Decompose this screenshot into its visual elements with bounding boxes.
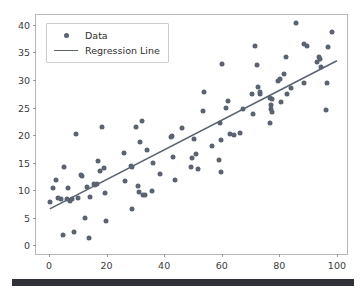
scatter-point bbox=[268, 121, 273, 126]
y-tick-label: 15 bbox=[18, 157, 30, 168]
scatter-point bbox=[103, 191, 108, 196]
scatter-point bbox=[209, 143, 214, 148]
x-tick-label: 0 bbox=[46, 260, 52, 271]
scatter-point bbox=[323, 107, 328, 112]
scatter-point bbox=[151, 161, 156, 166]
scatter-point bbox=[157, 172, 162, 177]
scatter-point bbox=[150, 189, 155, 194]
legend-dot-icon bbox=[64, 33, 69, 38]
scatter-point bbox=[50, 186, 55, 191]
scatter-point bbox=[54, 178, 59, 183]
x-tick-label: 20 bbox=[101, 260, 113, 271]
legend-line-swatch-icon bbox=[54, 50, 78, 52]
scatter-point bbox=[330, 30, 335, 35]
scatter-point bbox=[84, 184, 89, 189]
scatter-point bbox=[145, 147, 150, 152]
scatter-point bbox=[284, 91, 289, 96]
chart-legend: DataRegression Line bbox=[46, 23, 169, 63]
scatter-point bbox=[226, 99, 231, 104]
y-tick-label: 30 bbox=[18, 74, 30, 85]
scatter-point bbox=[270, 96, 275, 101]
scatter-point bbox=[325, 81, 330, 86]
scatter-point bbox=[172, 178, 177, 183]
scatter-point bbox=[76, 195, 81, 200]
scatter-point bbox=[101, 166, 106, 171]
legend-entry: Data bbox=[53, 28, 160, 43]
scatter-point bbox=[71, 229, 76, 234]
scatter-point bbox=[88, 194, 93, 199]
scatter-point bbox=[130, 207, 135, 212]
scatter-point bbox=[249, 91, 254, 96]
scatter-point bbox=[325, 44, 330, 49]
scatter-point bbox=[255, 62, 260, 67]
scatter-point bbox=[142, 192, 147, 197]
scatter-point bbox=[104, 218, 109, 223]
scatter-point bbox=[82, 215, 87, 220]
scatter-point bbox=[196, 167, 201, 172]
scatter-point bbox=[289, 86, 294, 91]
scatter-point bbox=[47, 199, 52, 204]
scatter-point bbox=[277, 76, 282, 81]
bottom-status-bar bbox=[12, 279, 354, 286]
scatter-point bbox=[69, 196, 74, 201]
scatter-point bbox=[59, 197, 64, 202]
x-tick-label: 80 bbox=[273, 260, 285, 271]
scatter-point bbox=[219, 138, 224, 143]
legend-label: Data bbox=[85, 30, 108, 41]
x-tick-label: 60 bbox=[216, 260, 228, 271]
scatter-point bbox=[188, 164, 193, 169]
scatter-point bbox=[134, 125, 139, 130]
y-tick-label: 35 bbox=[18, 47, 30, 58]
scatter-point bbox=[179, 125, 184, 130]
legend-entry: Regression Line bbox=[53, 43, 160, 58]
scatter-point bbox=[74, 131, 79, 136]
scatter-point bbox=[258, 91, 263, 96]
scatter-point bbox=[294, 20, 299, 25]
scatter-point bbox=[60, 233, 65, 238]
y-tick-mark bbox=[33, 25, 36, 26]
scatter-point bbox=[129, 164, 134, 169]
scatter-point bbox=[217, 158, 222, 163]
plot-axes-frame: 0510152025303540 020406080100 DataRegres… bbox=[35, 14, 348, 255]
y-tick-label: 25 bbox=[18, 102, 30, 113]
scatter-point bbox=[171, 154, 176, 159]
scatter-point bbox=[302, 80, 307, 85]
scatter-point bbox=[135, 184, 140, 189]
y-tick-mark bbox=[33, 80, 36, 81]
scatter-point bbox=[220, 62, 225, 67]
y-tick-label: 40 bbox=[18, 19, 30, 30]
scatter-point bbox=[62, 164, 67, 169]
scatter-point bbox=[139, 118, 144, 123]
y-tick-mark bbox=[33, 245, 36, 246]
scatter-point bbox=[250, 111, 255, 116]
y-tick-label: 5 bbox=[24, 212, 30, 223]
scatter-point bbox=[96, 158, 101, 163]
scatter-point bbox=[99, 124, 104, 129]
scatter-point bbox=[256, 84, 261, 89]
y-tick-mark bbox=[33, 163, 36, 164]
scatter-point bbox=[192, 137, 197, 142]
scatter-point bbox=[269, 110, 274, 115]
scatter-point bbox=[318, 64, 323, 69]
figure-canvas: 0510152025303540 020406080100 DataRegres… bbox=[0, 0, 361, 290]
scatter-point bbox=[224, 106, 229, 111]
x-tick-mark bbox=[164, 254, 165, 257]
y-tick-mark bbox=[33, 190, 36, 191]
x-tick-mark bbox=[279, 254, 280, 257]
scatter-point bbox=[201, 89, 206, 94]
scatter-point bbox=[281, 72, 286, 77]
scatter-point bbox=[279, 100, 284, 105]
y-tick-label: 10 bbox=[18, 185, 30, 196]
y-tick-label: 0 bbox=[24, 240, 30, 251]
x-tick-label: 40 bbox=[158, 260, 170, 271]
scatter-point bbox=[65, 186, 70, 191]
scatter-point bbox=[237, 130, 242, 135]
legend-label: Regression Line bbox=[85, 45, 160, 56]
scatter-point bbox=[170, 133, 175, 138]
scatter-point bbox=[87, 236, 92, 241]
scatter-point bbox=[304, 43, 309, 48]
scatter-point bbox=[194, 152, 199, 157]
scatter-point bbox=[200, 108, 205, 113]
scatter-point bbox=[218, 170, 223, 175]
scatter-point bbox=[80, 174, 85, 179]
